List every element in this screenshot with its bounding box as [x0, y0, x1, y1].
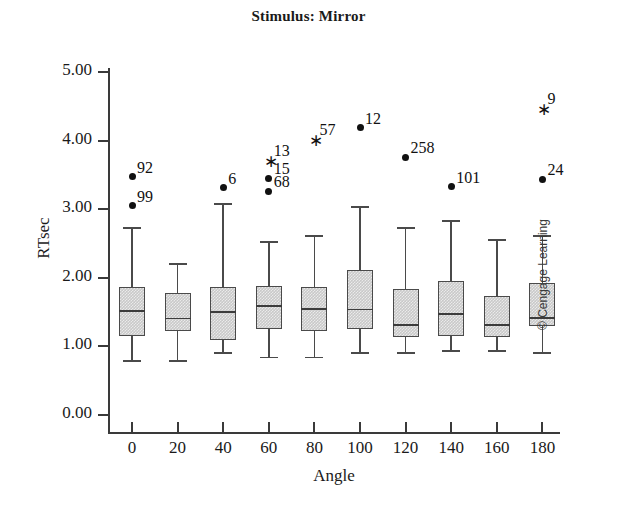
outlier-dot-marker: [357, 124, 364, 131]
x-axis-tick-label: 80: [291, 438, 337, 458]
outlier-case-label: 57: [319, 121, 335, 139]
whisker-cap-lower: [397, 352, 415, 354]
y-axis-tick-label: 1.00: [30, 334, 92, 354]
y-axis-tick: [98, 208, 109, 210]
whisker-cap-upper: [442, 220, 460, 222]
x-axis-tick: [541, 422, 543, 433]
x-axis-tick: [177, 422, 179, 433]
median-line: [256, 305, 282, 307]
whisker-cap-upper: [305, 235, 323, 237]
whisker-upper: [359, 206, 361, 270]
x-axis-tick: [359, 422, 361, 433]
x-axis-tick-label: 20: [155, 438, 201, 458]
whisker-lower: [268, 329, 270, 356]
median-line: [165, 318, 191, 320]
y-axis-tick: [98, 345, 109, 347]
box-iqr: [347, 270, 373, 330]
outlier-case-label: 12: [365, 110, 381, 128]
whisker-lower: [450, 336, 452, 350]
outlier-dot-marker: [129, 202, 136, 209]
whisker-cap-lower: [123, 360, 141, 362]
whisker-cap-lower: [260, 357, 278, 359]
outlier-case-label: 92: [137, 159, 153, 177]
plot-area: 0.001.002.003.004.005.00 020406080100120…: [0, 0, 617, 510]
whisker-cap-upper: [123, 227, 141, 229]
outlier-case-label: 258: [411, 139, 435, 157]
outlier-dot-marker: [448, 183, 455, 190]
outlier-dot-marker: [129, 173, 136, 180]
outlier-case-label: 6: [228, 170, 236, 188]
y-axis-tick: [98, 71, 109, 73]
whisker-cap-upper: [397, 227, 415, 229]
median-line: [119, 310, 145, 312]
whisker-cap-lower: [169, 360, 187, 362]
y-axis-tick-label: 5.00: [30, 60, 92, 80]
whisker-cap-lower: [351, 352, 369, 354]
x-axis-tick: [313, 422, 315, 433]
x-axis-tick: [496, 422, 498, 433]
outlier-dot-marker: [265, 188, 272, 195]
median-line: [301, 308, 327, 310]
whisker-lower: [131, 336, 133, 360]
median-line: [484, 324, 510, 326]
whisker-cap-lower: [442, 350, 460, 352]
median-line: [347, 309, 373, 311]
box-iqr: [484, 296, 510, 337]
box-iqr: [256, 286, 282, 329]
outlier-dot-marker: [265, 175, 272, 182]
y-axis-tick-label: 0.00: [30, 403, 92, 423]
whisker-cap-lower: [214, 352, 232, 354]
outlier-case-label: 99: [137, 188, 153, 206]
whisker-lower: [496, 337, 498, 350]
figure-container: Stimulus: Mirror 0.001.002.003.004.005.0…: [0, 0, 617, 510]
whisker-cap-lower: [305, 357, 323, 359]
whisker-cap-lower: [488, 350, 506, 352]
x-axis-tick: [222, 422, 224, 433]
x-axis-tick-label: 140: [428, 438, 474, 458]
y-axis-tick: [98, 414, 109, 416]
whisker-cap-upper: [488, 239, 506, 241]
whisker-lower: [177, 331, 179, 360]
outlier-case-label: 13: [274, 142, 290, 160]
box-iqr: [393, 289, 419, 337]
y-axis-tick: [98, 277, 109, 279]
whisker-upper: [268, 241, 270, 286]
whisker-cap-upper: [260, 241, 278, 243]
median-line: [438, 313, 464, 315]
outlier-case-label: 68: [274, 173, 290, 191]
x-axis-tick-label: 120: [383, 438, 429, 458]
y-axis-line: [108, 68, 110, 434]
outlier-case-label: 9: [547, 90, 555, 108]
whisker-upper: [131, 227, 133, 287]
whisker-cap-upper: [169, 263, 187, 265]
y-axis-title: RTsec: [34, 178, 54, 298]
whisker-cap-lower: [533, 352, 551, 354]
x-axis-tick-label: 100: [337, 438, 383, 458]
median-line: [210, 311, 236, 313]
whisker-upper: [405, 227, 407, 289]
x-axis-tick-label: 0: [109, 438, 155, 458]
x-axis-tick-label: 40: [200, 438, 246, 458]
outlier-dot-marker: [220, 184, 227, 191]
x-axis-tick-label: 180: [519, 438, 565, 458]
x-axis-tick: [131, 422, 133, 433]
copyright-notice: © Cengage Learning: [536, 170, 550, 330]
box-iqr: [210, 287, 236, 340]
box-iqr: [165, 293, 191, 331]
whisker-upper: [314, 235, 316, 287]
whisker-cap-upper: [351, 206, 369, 208]
x-axis-tick-label: 60: [246, 438, 292, 458]
x-axis-tick: [405, 422, 407, 433]
x-axis-title: Angle: [108, 466, 560, 486]
y-axis-tick-label: 4.00: [30, 129, 92, 149]
outlier-dot-marker: [402, 154, 409, 161]
median-line: [393, 324, 419, 326]
x-axis-tick: [450, 422, 452, 433]
whisker-lower: [359, 329, 361, 352]
box-iqr: [438, 281, 464, 336]
x-axis-tick-label: 160: [474, 438, 520, 458]
whisker-upper: [450, 220, 452, 281]
whisker-lower: [222, 340, 224, 352]
whisker-lower: [314, 331, 316, 356]
whisker-lower: [405, 337, 407, 351]
